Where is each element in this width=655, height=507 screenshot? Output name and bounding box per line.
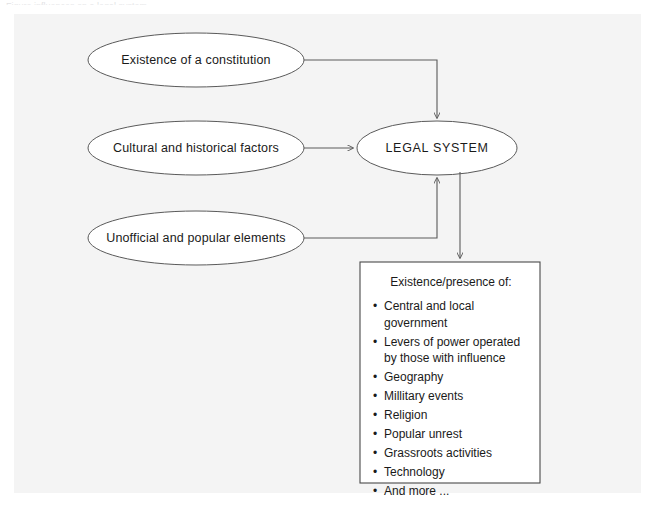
outcome-box-title: Existence/presence of:	[371, 275, 531, 289]
outcome-list-item-label: Millitary events	[384, 389, 463, 403]
outcome-list-item-label: Popular unrest	[384, 427, 462, 441]
bullet-dot-icon: •	[373, 464, 377, 481]
outcome-list-item: •Central and local government	[371, 298, 531, 331]
outcome-list-item: •Religion	[371, 407, 531, 424]
bullet-dot-icon: •	[373, 334, 377, 351]
outcome-list-item-label: Grassroots activities	[384, 446, 492, 460]
outcome-list-item: •Geography	[371, 369, 531, 386]
node-ellipse-unofficial	[88, 211, 304, 265]
connector-unofficial-to-legal-system	[304, 178, 437, 238]
outcome-list-item: •Popular unrest	[371, 426, 531, 443]
outcome-list-item-label: Geography	[384, 370, 443, 384]
bullet-dot-icon: •	[373, 483, 377, 500]
outcome-box-content: Existence/presence of: •Central and loca…	[361, 263, 539, 482]
bullet-dot-icon: •	[373, 298, 377, 315]
outcome-bullet-list: •Central and local government•Levers of …	[371, 298, 531, 500]
diagram-graphics	[0, 0, 655, 507]
figure-canvas: Figure influences on a legal system Exis…	[0, 0, 655, 507]
outcome-list-item: •And more ...	[371, 483, 531, 500]
outcome-list-item: •Technology	[371, 464, 531, 481]
outcome-list-item-label: And more ...	[384, 484, 449, 498]
node-ellipse-cultural	[88, 121, 304, 175]
connector-constitution-to-legal-system	[304, 60, 437, 118]
bullet-dot-icon: •	[373, 426, 377, 443]
outcome-list-item-label: Central and local government	[384, 299, 474, 330]
bullet-dot-icon: •	[373, 445, 377, 462]
outcome-list-item-label: Levers of power operated by those with i…	[384, 335, 520, 366]
outcome-list-item: •Grassroots activities	[371, 445, 531, 462]
node-ellipse-constitution	[88, 33, 304, 87]
bullet-dot-icon: •	[373, 369, 377, 386]
bullet-dot-icon: •	[373, 388, 377, 405]
bullet-dot-icon: •	[373, 407, 377, 424]
node-ellipse-legal-system	[357, 121, 517, 175]
outcome-list-item: •Levers of power operated by those with …	[371, 334, 531, 367]
outcome-list-item: •Millitary events	[371, 388, 531, 405]
outcome-list-item-label: Technology	[384, 465, 445, 479]
outcome-list-item-label: Religion	[384, 408, 427, 422]
